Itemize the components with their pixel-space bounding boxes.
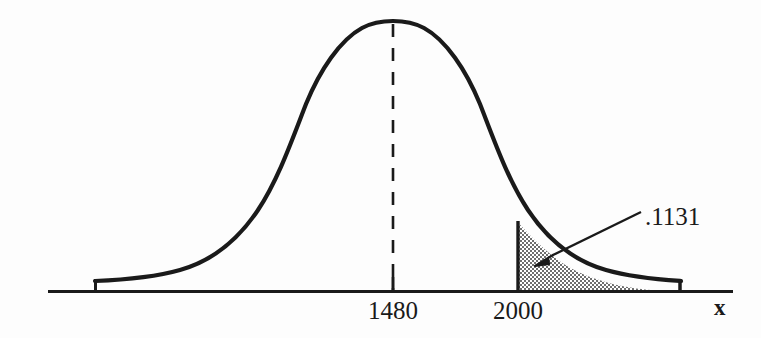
normal-curve xyxy=(95,21,681,281)
normal-distribution-figure: 1480 2000 .1131 x xyxy=(0,0,761,338)
x-axis-name-label: x xyxy=(714,296,726,319)
x-tick-label-1480: 1480 xyxy=(368,298,418,323)
tail-area-label: .1131 xyxy=(645,204,700,229)
distribution-plot xyxy=(0,0,761,338)
x-tick-label-2000: 2000 xyxy=(493,298,543,323)
